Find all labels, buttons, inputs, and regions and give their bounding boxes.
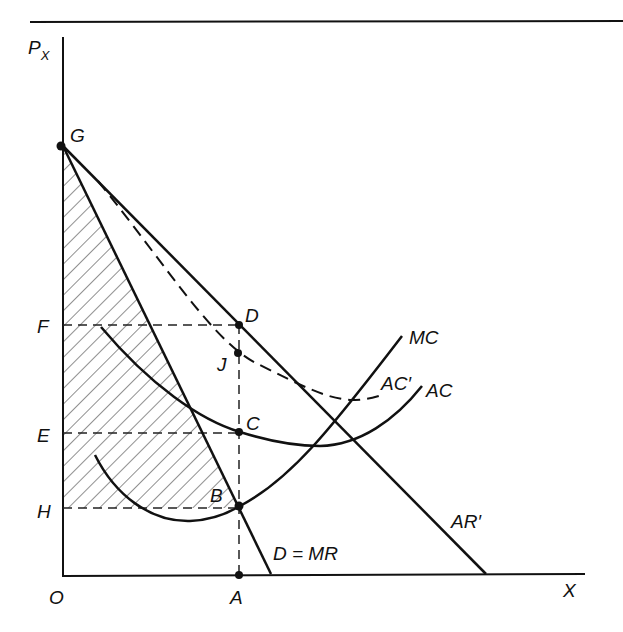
label-ar-prime: AR′ bbox=[450, 511, 482, 532]
label-e: E bbox=[37, 425, 50, 446]
point-b bbox=[235, 502, 244, 511]
label-c: C bbox=[246, 413, 260, 434]
point-d bbox=[235, 321, 243, 329]
label-px: PX bbox=[28, 37, 51, 63]
label-f: F bbox=[37, 316, 50, 337]
label-a: A bbox=[229, 587, 243, 608]
label-d-mr: D = MR bbox=[273, 543, 338, 564]
economics-diagram: PX G F E H O A X D J C B MC AC′ AC AR′ D… bbox=[0, 0, 623, 632]
label-g: G bbox=[70, 125, 85, 146]
point-a bbox=[235, 571, 243, 579]
label-mc: MC bbox=[409, 327, 439, 348]
point-j bbox=[234, 349, 242, 357]
x-axis bbox=[63, 574, 585, 576]
top-rule bbox=[30, 21, 623, 22]
label-ac: AC bbox=[425, 380, 453, 401]
label-x: X bbox=[562, 580, 577, 601]
label-ac-prime: AC′ bbox=[380, 373, 412, 394]
label-o: O bbox=[49, 587, 64, 608]
label-h: H bbox=[37, 501, 51, 522]
point-g bbox=[57, 142, 66, 151]
label-j: J bbox=[216, 354, 227, 375]
point-c bbox=[235, 428, 243, 436]
label-d: D bbox=[245, 305, 259, 326]
label-b: B bbox=[210, 485, 223, 506]
